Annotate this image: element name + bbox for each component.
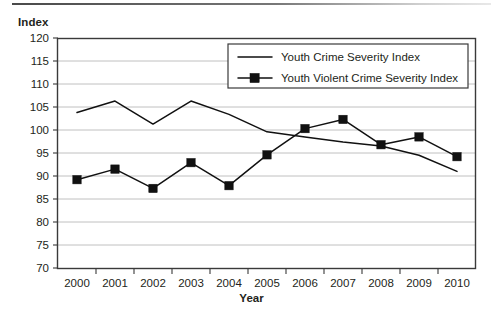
- data-point-marker: [263, 151, 271, 159]
- data-point-marker: [377, 141, 385, 149]
- y-tick-label: 105: [30, 101, 49, 113]
- x-tick-label: 2002: [140, 277, 166, 289]
- y-tick-label: 120: [30, 32, 49, 44]
- x-tick-label: 2007: [330, 277, 356, 289]
- legend-item-label: Youth Crime Severity Index: [281, 51, 420, 63]
- chart-legend: Youth Crime Severity IndexYouth Violent …: [228, 44, 468, 88]
- y-tick-label: 70: [36, 262, 49, 274]
- data-point-marker: [225, 181, 233, 189]
- data-point-marker: [339, 115, 347, 123]
- data-point-marker: [415, 133, 423, 141]
- x-tick-label: 2001: [102, 277, 128, 289]
- data-point-marker: [301, 124, 309, 132]
- x-tick-label: 2009: [406, 277, 432, 289]
- x-tick-label: 2006: [292, 277, 318, 289]
- legend-swatch-marker: [250, 73, 259, 82]
- y-tick-label: 75: [36, 239, 49, 251]
- x-axis-title: Year: [0, 292, 503, 304]
- y-axis-tick-labels: 707580859095100105110115120: [30, 32, 49, 274]
- x-tick-label: 2004: [216, 277, 242, 289]
- x-tick-label: 2003: [178, 277, 204, 289]
- legend-item-label: Youth Violent Crime Severity Index: [281, 72, 458, 84]
- y-tick-label: 115: [31, 55, 49, 67]
- data-point-marker: [187, 158, 195, 166]
- y-tick-label: 95: [36, 147, 49, 159]
- x-tick-label: 2008: [368, 277, 394, 289]
- data-point-marker: [73, 175, 81, 183]
- data-point-marker: [149, 184, 157, 192]
- data-series: [73, 101, 461, 193]
- x-tick-label: 2005: [254, 277, 280, 289]
- series-line: [77, 101, 457, 171]
- y-tick-label: 100: [30, 124, 49, 136]
- y-tick-label: 85: [36, 193, 49, 205]
- line-chart: 707580859095100105110115120 200020012002…: [0, 0, 503, 318]
- x-axis-tick-labels: 2000200120022003200420052006200720082009…: [64, 277, 470, 289]
- y-tick-label: 90: [36, 170, 49, 182]
- data-point-marker: [453, 152, 461, 160]
- data-point-marker: [111, 165, 119, 173]
- y-tick-label: 110: [31, 78, 49, 90]
- x-tick-label: 2010: [444, 277, 470, 289]
- y-tick-label: 80: [36, 216, 49, 228]
- x-tick-label: 2000: [64, 277, 90, 289]
